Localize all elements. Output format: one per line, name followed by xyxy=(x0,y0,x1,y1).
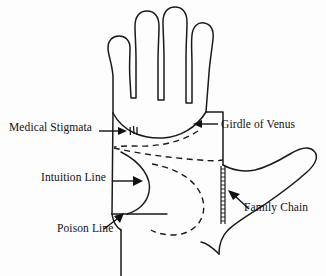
upper-dashed-crease xyxy=(114,148,223,161)
label-girdle-of-venus: Girdle of Venus xyxy=(221,118,295,130)
palmistry-diagram: Medical Stigmata Girdle of Venus Intuiti… xyxy=(0,0,326,276)
label-intuition-line: Intuition Line xyxy=(41,171,106,183)
hand-outline-group xyxy=(108,7,316,276)
label-medical-stigmata: Medical Stigmata xyxy=(9,121,92,133)
lower-dashed-crease xyxy=(151,164,204,235)
girdle-of-venus-line xyxy=(114,131,198,147)
girdle-of-venus-arrowhead xyxy=(193,120,202,128)
palm-left-edge xyxy=(112,113,113,214)
heel-outline xyxy=(201,242,219,254)
label-family-chain: Family Chain xyxy=(244,201,308,213)
label-poison-line: Poison Line xyxy=(57,222,113,234)
palm-top-arc xyxy=(113,112,206,138)
fingers-and-palm-outline xyxy=(108,7,213,113)
intuition-line-arrowhead xyxy=(133,176,143,186)
family-chain-mark xyxy=(221,166,225,224)
hand-illustration xyxy=(0,0,326,276)
